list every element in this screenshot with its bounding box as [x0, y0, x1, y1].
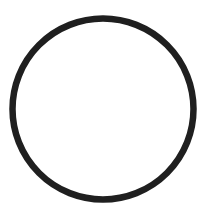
diagram-canvas — [0, 0, 212, 215]
circle-outline — [13, 19, 194, 200]
diagram-svg — [0, 0, 212, 215]
